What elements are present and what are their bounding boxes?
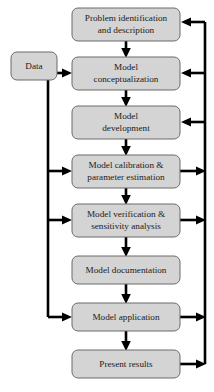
node-model-verification[interactable]: Model verification & sensitivity analysi… [72, 204, 180, 237]
node-model-conceptualization-label-line1: Model [114, 62, 138, 72]
flowchart-diagram: Data Problem identification and descript… [0, 0, 214, 392]
node-present-results[interactable]: Present results [72, 350, 180, 378]
node-model-calibration-label-line2: parameter estimation [87, 172, 165, 182]
node-model-application-label: Model application [92, 312, 160, 322]
node-model-conceptualization-label-line2: conceptualization [94, 74, 159, 84]
node-model-conceptualization[interactable]: Model conceptualization [72, 57, 180, 90]
arrow-head-into-model-calibration-left [62, 167, 72, 176]
arrow-head-into-model-application-left [62, 313, 72, 322]
node-model-development[interactable]: Model development [72, 106, 180, 139]
arrow-head-into-model-verification-left [62, 216, 72, 225]
node-model-verification-label-line2: sensitivity analysis [91, 221, 161, 231]
arrow-head-into-model-development [181, 118, 191, 127]
node-model-development-label-line2: development [102, 123, 150, 133]
node-data-label: Data [25, 61, 42, 71]
node-model-development-label-line1: Model [114, 111, 138, 121]
flowchart-canvas: Data Problem identification and descript… [0, 0, 214, 392]
arrow-head-into-model-conceptualization-left [62, 69, 72, 78]
node-model-verification-label-line1: Model verification & [87, 209, 165, 219]
node-problem-identification-label-line1: Problem identification [85, 13, 168, 23]
arrow-head-into-model-conceptualization-right [181, 69, 191, 78]
node-present-results-label: Present results [99, 359, 153, 369]
node-model-calibration[interactable]: Model calibration & parameter estimation [72, 155, 180, 188]
node-model-application[interactable]: Model application [72, 303, 180, 331]
node-model-documentation[interactable]: Model documentation [72, 256, 180, 284]
node-problem-identification[interactable]: Problem identification and description [72, 8, 180, 41]
node-model-documentation-label: Model documentation [86, 265, 167, 275]
node-model-calibration-label-line1: Model calibration & [88, 160, 163, 170]
node-data[interactable]: Data [11, 52, 57, 80]
node-problem-identification-label-line2: and description [98, 25, 155, 35]
arrow-head-into-problem-identification [181, 18, 191, 27]
